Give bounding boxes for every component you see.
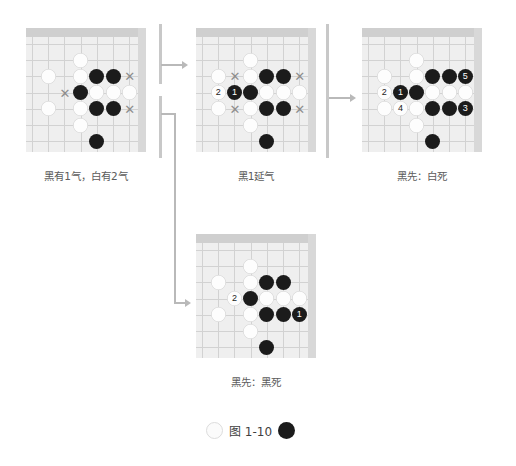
go-stone-black: [276, 69, 291, 84]
board-gridline-vertical: [202, 37, 203, 152]
go-diagram-3: 52143: [362, 28, 482, 152]
board-gridline-horizontal: [26, 141, 138, 142]
figure-white-stone-icon: [206, 422, 223, 439]
go-stone-white: [243, 275, 258, 290]
go-stone-white: [122, 85, 137, 100]
stone-move-number: 1: [232, 88, 237, 97]
go-stone-black: [442, 101, 457, 116]
figure-footer: 图 1-10: [206, 422, 295, 439]
board-gridline-horizontal: [26, 44, 138, 45]
go-stone-black: [425, 134, 440, 149]
go-stone-white: [243, 118, 258, 133]
go-stone-white: [211, 275, 226, 290]
board-gridline-vertical: [368, 37, 369, 152]
go-board: 52143: [362, 28, 482, 152]
caption-diagram-4: 黑先：黑死: [196, 374, 316, 389]
board-gridline-vertical: [48, 37, 49, 152]
caption-diagram-3: 黑先：白死: [362, 168, 482, 183]
stone-move-number: 3: [463, 104, 468, 113]
board-top-edge-band: [196, 234, 316, 243]
go-stone-white: [73, 118, 88, 133]
liberty-x-mark-icon: ✕: [124, 103, 135, 116]
go-stone-white: [442, 85, 457, 100]
go-board: 21: [196, 234, 316, 358]
board-gridline-horizontal: [196, 250, 308, 251]
go-stone-white: [409, 118, 424, 133]
go-stone-white: [73, 53, 88, 68]
stone-move-number: 1: [297, 310, 302, 319]
board-gridline-horizontal: [196, 141, 308, 142]
connector-line-1-to-2: [161, 64, 183, 66]
board-right-edge-band: [474, 28, 482, 152]
board-gridline-horizontal: [196, 44, 308, 45]
go-stone-black-move-1: 1: [292, 307, 307, 322]
go-stone-white: [292, 85, 307, 100]
board-gridline-horizontal: [196, 347, 308, 348]
go-stone-black: [259, 134, 274, 149]
caption-diagram-1: 黑有1气，白有2气: [26, 168, 146, 183]
board-right-edge-band: [308, 28, 316, 152]
go-stone-white: [41, 69, 56, 84]
figure-label: 图 1-10: [229, 422, 272, 439]
board-right-edge-band: [308, 234, 316, 358]
go-stone-white: [243, 259, 258, 274]
go-stone-black-move-3: 3: [458, 101, 473, 116]
go-board: ✕✕✕✕21: [196, 28, 316, 152]
go-stone-black: [276, 307, 291, 322]
go-stone-white: [243, 324, 258, 339]
liberty-x-mark-icon: ✕: [294, 103, 305, 116]
board-gridline-horizontal: [362, 44, 474, 45]
connector-line-branch-vertical: [174, 113, 176, 303]
go-stone-white-move-2: 2: [211, 85, 226, 100]
board-gridline-vertical: [218, 243, 219, 358]
go-stone-white: [458, 85, 473, 100]
go-stone-black: [276, 275, 291, 290]
go-stone-white: [409, 69, 424, 84]
go-stone-black: [442, 69, 457, 84]
stone-move-number: 2: [382, 88, 387, 97]
board-gridline-horizontal: [362, 141, 474, 142]
go-stone-black: [89, 134, 104, 149]
go-stone-white: [292, 291, 307, 306]
figure-black-stone-icon: [278, 422, 295, 439]
go-diagram-1: ✕✕✕: [26, 28, 146, 152]
stone-move-number: 4: [398, 104, 403, 113]
board-gridline-vertical: [202, 243, 203, 358]
go-stone-white: [211, 69, 226, 84]
go-stone-black-move-1: 1: [227, 85, 242, 100]
go-stone-white: [41, 101, 56, 116]
go-stone-white: [243, 69, 258, 84]
stone-move-number: 1: [398, 88, 403, 97]
go-stone-white: [276, 291, 291, 306]
arrow-head-1-to-2: [182, 61, 188, 69]
go-stone-white: [377, 101, 392, 116]
go-stone-black-move-5: 5: [458, 69, 473, 84]
go-stone-black: [106, 101, 121, 116]
go-stone-white: [73, 69, 88, 84]
separator-bar-upper-left: [159, 24, 162, 84]
board-top-edge-band: [26, 28, 146, 37]
go-stone-black: [276, 101, 291, 116]
go-stone-white: [409, 53, 424, 68]
liberty-x-mark-icon: ✕: [59, 87, 70, 100]
connector-line-branch-stub: [161, 113, 175, 115]
go-stone-white: [211, 307, 226, 322]
liberty-x-mark-icon: ✕: [229, 103, 240, 116]
liberty-x-mark-icon: ✕: [229, 70, 240, 83]
liberty-x-mark-icon: ✕: [294, 70, 305, 83]
go-stone-white: [211, 101, 226, 116]
stone-move-number: 2: [232, 294, 237, 303]
board-top-edge-band: [196, 28, 316, 37]
go-stone-white: [243, 53, 258, 68]
go-board: ✕✕✕: [26, 28, 146, 152]
go-stone-white-move-2: 2: [227, 291, 242, 306]
separator-bar-lower-left: [159, 96, 162, 158]
go-stone-black: [259, 340, 274, 355]
go-stone-white-move-2: 2: [377, 85, 392, 100]
liberty-x-mark-icon: ✕: [124, 70, 135, 83]
stone-move-number: 5: [463, 72, 468, 81]
go-stone-black-move-1: 1: [393, 85, 408, 100]
board-right-edge-band: [138, 28, 146, 152]
board-top-edge-band: [362, 28, 482, 37]
go-stone-black: [106, 69, 121, 84]
